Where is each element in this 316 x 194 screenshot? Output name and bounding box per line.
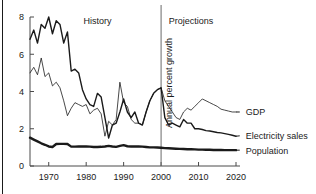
annotation-projections: Projections [169, 16, 214, 26]
series-label-population: Population [246, 146, 289, 156]
y-axis-tick-label: 8 [19, 12, 24, 22]
chart-container: 02468197019801990200020102020Electricity… [0, 0, 316, 194]
series-label-electricity-sales: Electricity sales [246, 131, 309, 141]
y-axis-tick-label: 0 [19, 161, 24, 171]
x-axis-tick-label: 2020 [226, 172, 246, 182]
x-axis-tick-label: 2010 [189, 172, 209, 182]
x-axis-tick-label: 1990 [114, 172, 134, 182]
x-axis-tick-label: 2000 [151, 172, 171, 182]
series-line-population [30, 138, 236, 150]
series-label-gdp: GDP [246, 107, 266, 117]
y-axis-title: Annual percent growth [164, 38, 174, 128]
x-axis-tick-label: 1970 [39, 172, 59, 182]
annotation-history: History [83, 16, 112, 26]
y-axis-tick-label: 4 [19, 87, 24, 97]
series-line-electricity-sales [30, 17, 236, 138]
y-axis-tick-label: 6 [19, 50, 24, 60]
series-line-gdp [30, 58, 236, 136]
x-axis-tick-label: 1980 [76, 172, 96, 182]
y-axis-tick-label: 2 [19, 124, 24, 134]
line-chart-plot: 02468197019801990200020102020Electricity… [0, 0, 316, 194]
